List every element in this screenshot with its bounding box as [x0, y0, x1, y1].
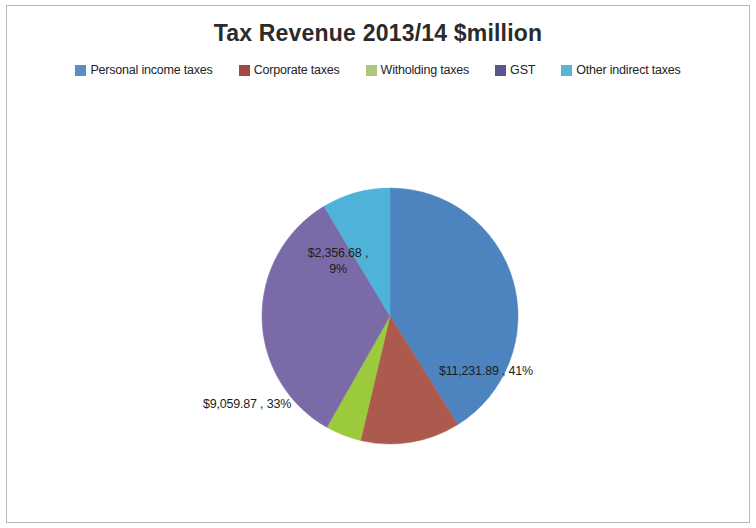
legend-swatch-icon: [366, 65, 377, 76]
legend-item-label: Corporate taxes: [254, 63, 340, 77]
legend-item-gst[interactable]: GST: [495, 63, 535, 77]
legend-swatch-icon: [561, 65, 572, 76]
legend-swatch-icon: [75, 65, 86, 76]
slice-label-other-indirect-taxes: $2,356.68 , 9%: [305, 246, 371, 277]
chart-title: Tax Revenue 2013/14 $million: [7, 20, 749, 47]
slice-label-other-line2: 9%: [305, 262, 371, 278]
legend-item-label: GST: [510, 63, 535, 77]
legend-swatch-icon: [495, 65, 506, 76]
legend-item-personal-income-taxes[interactable]: Personal income taxes: [75, 63, 212, 77]
slice-label-gst: $9,059.87 , 33%: [203, 397, 291, 413]
legend-item-label: Other indirect taxes: [576, 63, 680, 77]
chart-frame: Tax Revenue 2013/14 $million Personal in…: [6, 5, 750, 523]
legend-swatch-icon: [239, 65, 250, 76]
legend-item-label: Personal income taxes: [90, 63, 212, 77]
slice-label-personal-income-taxes: $11,231.89 , 41%: [439, 364, 533, 380]
pie-chart-svg: [7, 94, 751, 524]
chart-legend: Personal income taxes Corporate taxes Wi…: [7, 63, 749, 77]
legend-item-witholding-taxes[interactable]: Witholding taxes: [366, 63, 470, 77]
legend-item-label: Witholding taxes: [381, 63, 470, 77]
legend-item-other-indirect-taxes[interactable]: Other indirect taxes: [561, 63, 680, 77]
pie-plot-area: $11,231.89 , 41% $3,441.04 , 13% $1,232.…: [7, 94, 749, 524]
legend-item-corporate-taxes[interactable]: Corporate taxes: [239, 63, 340, 77]
slice-label-other-line1: $2,356.68 ,: [305, 246, 371, 262]
pie-slices-group: [262, 188, 518, 444]
